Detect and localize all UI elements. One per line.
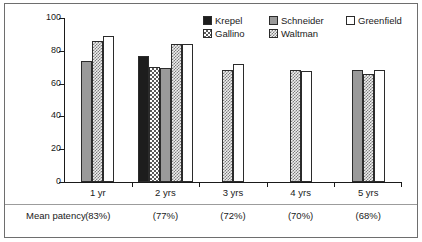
x-axis-label: 4 yrs [267, 186, 335, 200]
mean-patency-value: (77%) [132, 209, 200, 223]
bar [363, 74, 374, 182]
x-axis-label: 1 yr [64, 186, 132, 200]
legend-label: Waltman [281, 28, 318, 39]
mean-patency-value: (72%) [199, 209, 267, 223]
plot-area [64, 18, 402, 182]
legend-label: Schneider [281, 15, 324, 26]
legend-entry: Greenfield [346, 15, 402, 26]
x-axis-label: 3 yrs [199, 186, 267, 200]
legend: KrepelSchneiderGreenfieldGallinoWaltman [203, 14, 403, 40]
bar [352, 70, 363, 182]
legend-swatch-icon [346, 16, 355, 25]
legend-swatch-icon [269, 16, 278, 25]
table-divider [5, 204, 417, 205]
y-axis-tick-label: 80 [51, 45, 61, 56]
bar-group [64, 18, 402, 182]
y-axis-tick-label: 100 [46, 12, 61, 23]
y-axis-tick-label: 0 [56, 176, 61, 187]
mean-patency-value: (70%) [267, 209, 335, 223]
y-axis-tick-label: 40 [51, 110, 61, 121]
legend-swatch-icon [203, 16, 212, 25]
legend-entry: Gallino [203, 28, 245, 39]
mean-patency-row: Mean patency (83%)(77%)(72%)(70%)(68%) [0, 209, 422, 227]
legend-swatch-icon [269, 29, 278, 38]
legend-label: Krepel [215, 15, 242, 26]
legend-label: Gallino [215, 28, 245, 39]
y-axis-tick-label: 60 [51, 78, 61, 89]
x-axis-label: 2 yrs [132, 186, 200, 200]
x-axis-labels: 1 yr2 yrs3 yrs4 yrs5 yrs [64, 186, 402, 202]
legend-label: Greenfield [358, 15, 402, 26]
mean-patency-value: (68%) [334, 209, 402, 223]
legend-row: GallinoWaltman [203, 27, 403, 40]
x-axis-label: 5 yrs [334, 186, 402, 200]
legend-row: KrepelSchneiderGreenfield [203, 14, 403, 27]
figure-root: Patency (%) 020406080100 KrepelSchneider… [0, 0, 422, 242]
mean-patency-value: (83%) [64, 209, 132, 223]
legend-swatch-icon [203, 29, 212, 38]
bar [374, 70, 385, 182]
x-axis-line [64, 182, 402, 183]
legend-entry: Krepel [203, 15, 242, 26]
legend-entry: Schneider [269, 15, 324, 26]
y-axis-tick-label: 20 [51, 143, 61, 154]
legend-entry: Waltman [269, 28, 318, 39]
